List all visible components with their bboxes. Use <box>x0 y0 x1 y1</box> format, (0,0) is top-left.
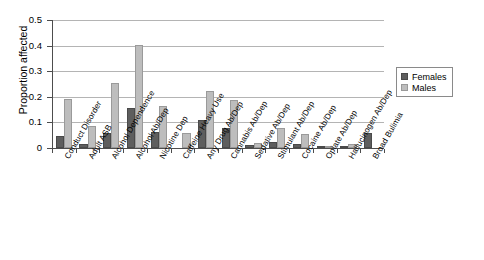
bar-females <box>245 145 253 148</box>
legend-label-males: Males <box>412 83 436 93</box>
legend-item-females: Females <box>401 71 447 82</box>
legend-swatch-females-icon <box>401 73 408 80</box>
bar-females <box>293 144 301 148</box>
bar-females <box>340 146 348 148</box>
legend-swatch-males-icon <box>401 84 408 91</box>
bar-females <box>79 144 87 148</box>
bar-chart: Proportion affected 00.10.20.30.40.5 Con… <box>0 0 484 260</box>
bar-males <box>111 83 119 148</box>
y-axis-tick-label: 0.1 <box>2 116 42 127</box>
legend: Females Males <box>396 67 453 97</box>
x-axis-category-labels: Conduct DisorderAdult ASBAlcohol Depende… <box>0 150 484 260</box>
y-axis-tick-label: 0.2 <box>2 91 42 102</box>
y-axis-tick-label: 0.5 <box>2 14 42 25</box>
bar-group <box>52 20 76 148</box>
legend-item-males: Males <box>401 82 447 93</box>
bar-females <box>56 136 64 148</box>
y-axis-tick-label: 0.3 <box>2 65 42 76</box>
legend-label-females: Females <box>412 72 447 82</box>
bar-females <box>317 146 325 148</box>
bar-males <box>135 45 143 148</box>
y-axis-tick-label: 0.4 <box>2 40 42 51</box>
